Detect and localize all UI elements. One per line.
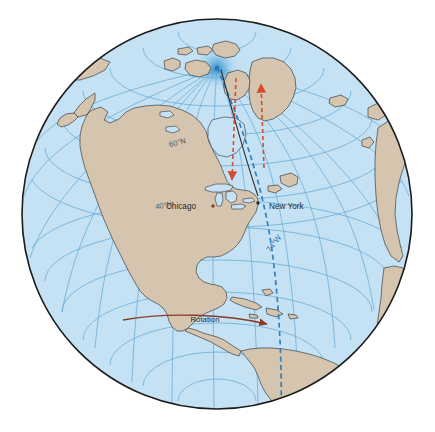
- globe-svg: Chicago New York 60°N 40°N 74°W Rotation: [0, 0, 435, 432]
- label-new-york: New York: [269, 202, 304, 211]
- label-rotation: Rotation: [190, 315, 219, 324]
- globe-figure: Chicago New York 60°N 40°N 74°W Rotation: [0, 0, 435, 432]
- lake-michigan: [215, 193, 223, 206]
- new-york-dot: [256, 201, 259, 204]
- chicago-dot: [211, 204, 214, 207]
